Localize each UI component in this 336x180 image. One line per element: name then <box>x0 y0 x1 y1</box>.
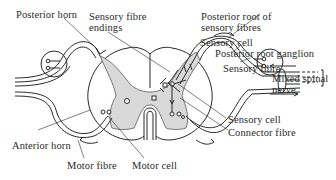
central-canal <box>125 99 130 104</box>
label-posterior-root-ganglion: Posterior root ganglion <box>215 48 314 59</box>
label-motor-fibre: Motor fibre <box>67 160 117 171</box>
label-sensory-fibre-endings-line1: Sensory fibre <box>89 11 147 22</box>
anterior-fissure <box>144 108 156 140</box>
label-posterior-horn: Posterior horn <box>16 9 77 20</box>
label-connector-fibre: Connector fibre <box>228 127 296 138</box>
spinal-cord-diagram: Posterior horn Sensory fibre endings Pos… <box>0 0 336 180</box>
label-sensory-cell-bottom: Sensory cell <box>228 114 281 125</box>
left-anterior-root <box>15 92 112 138</box>
label-posterior-root-line2: sensory fibres <box>201 22 261 33</box>
label-sensory-fibre-endings-line2: endings <box>89 22 122 33</box>
left-posterior-root <box>15 42 100 86</box>
label-nerve: nerve <box>272 84 296 95</box>
label-anterior-horn: Anterior horn <box>12 140 71 151</box>
label-motor-cell: Motor cell <box>132 160 177 171</box>
left-motor-cells <box>101 110 111 114</box>
label-sensory-cell-top: Sensory cell <box>200 37 253 48</box>
label-posterior-root-line1: Posterior root of <box>201 11 272 22</box>
label-mixed-spinal: Mixed spinal <box>272 73 328 84</box>
